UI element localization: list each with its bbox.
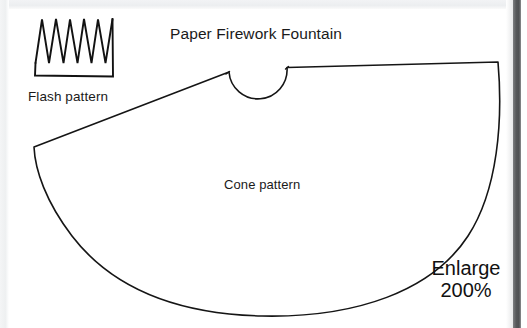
- cone-pattern-label: Cone pattern: [224, 177, 300, 192]
- page-right-margin: [521, 0, 527, 328]
- scanned-template-page: Paper Firework Fountain Flash pattern Co…: [0, 0, 527, 328]
- enlarge-percent-label: 200%: [414, 280, 518, 302]
- page-right-edge-shadow: [513, 0, 521, 328]
- notch-shoulder-detail: [226, 67, 289, 75]
- page-right-edge-falloff: [506, 0, 513, 328]
- flash-pattern-shape: [35, 19, 113, 77]
- enlarge-instruction: Enlarge 200%: [414, 258, 518, 301]
- enlarge-word-label: Enlarge: [414, 258, 518, 280]
- flash-pattern-label: Flash pattern: [28, 89, 108, 104]
- page-title: Paper Firework Fountain: [170, 25, 342, 43]
